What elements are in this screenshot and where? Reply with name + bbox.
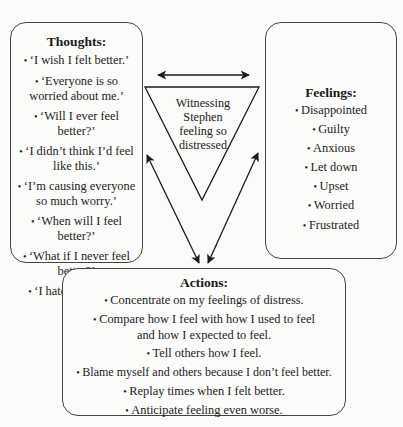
feeling-item: Disappointed: [270, 103, 392, 119]
action-item: Replay times when I felt better.: [67, 384, 341, 400]
arrow-feelings-actions: [208, 153, 258, 263]
action-item: Blame myself and others because I don’t …: [67, 365, 341, 381]
feelings-list: Disappointed Guilty Anxious Let down Ups…: [270, 103, 392, 233]
actions-list: Concentrate on my feelings of distress. …: [67, 293, 341, 418]
actions-box: Actions: Concentrate on my feelings of d…: [62, 268, 346, 416]
feelings-title: Feelings:: [270, 85, 392, 101]
action-item: Tell others how I feel.: [67, 346, 341, 362]
thought-item: ‘I didn’t think I’d feel like this.’: [15, 144, 138, 174]
feeling-item: Frustrated: [270, 218, 392, 234]
center-label: Witnessing Stephen feeling so distressed: [168, 96, 238, 152]
feeling-item: Anxious: [270, 141, 392, 157]
feeling-item: Upset: [270, 179, 392, 195]
action-item: Compare how I feel with how I used to fe…: [67, 312, 341, 342]
feelings-box: Feelings: Disappointed Guilty Anxious Le…: [265, 22, 397, 259]
thoughts-box: Thoughts: ‘I wish I felt better.’ ‘Every…: [10, 22, 143, 263]
actions-title: Actions:: [67, 275, 341, 291]
thought-item: ‘I wish I felt better.’: [15, 53, 138, 69]
feeling-item: Worried: [270, 198, 392, 214]
action-item: Anticipate feeling even worse.: [67, 403, 341, 419]
thought-item: ‘Everyone is so worried about me.’: [15, 74, 138, 104]
feeling-item: Guilty: [270, 122, 392, 138]
thought-item: ‘I’m causing everyone so much worry.’: [15, 179, 138, 209]
action-item: Concentrate on my feelings of distress.: [67, 293, 341, 309]
arrow-thoughts-actions: [147, 155, 199, 263]
thought-item: ‘When will I feel better?’: [15, 214, 138, 244]
thoughts-title: Thoughts:: [15, 34, 138, 50]
thought-item: ‘Will I ever feel better?’: [15, 109, 138, 139]
feeling-item: Let down: [270, 160, 392, 176]
